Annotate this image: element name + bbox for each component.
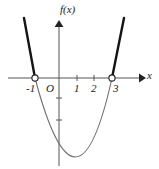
y-axis-label: f(x)	[60, 4, 75, 15]
function-graph-figure: f(x) x -1 O 1 2 3	[0, 0, 159, 169]
open-point--1	[32, 75, 38, 81]
left-branch-line	[24, 18, 35, 78]
origin-label: O	[46, 83, 54, 94]
right-branch-line	[112, 18, 124, 78]
y-axis-arrow-icon	[55, 20, 64, 27]
x-tick-label-3: 3	[113, 83, 119, 94]
x-axis-arrow-icon	[139, 74, 146, 83]
x-tick-label-1: 1	[74, 83, 80, 94]
x-tick-label-2: 2	[91, 83, 97, 94]
graph-canvas	[0, 0, 159, 169]
open-point-3	[109, 75, 115, 81]
x-tick-label--1: -1	[26, 83, 35, 94]
x-axis-label: x	[147, 70, 152, 81]
